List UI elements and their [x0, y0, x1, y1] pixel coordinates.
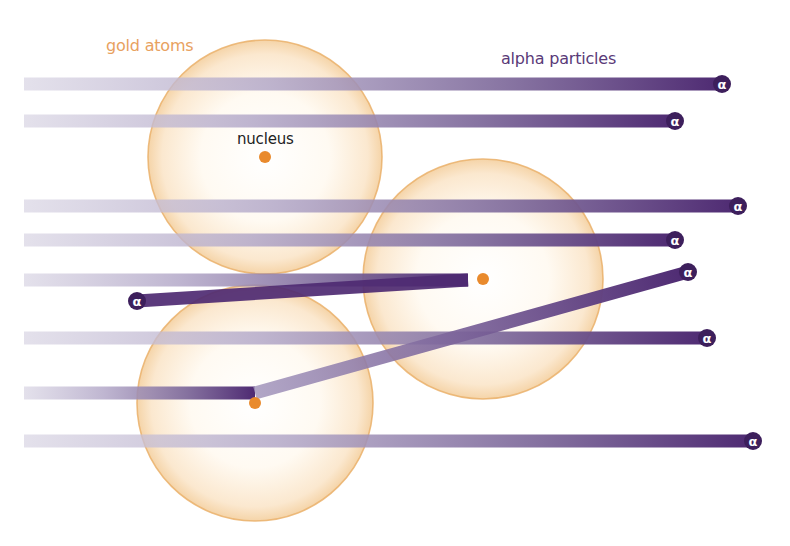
alpha-particle-icon: α [744, 432, 762, 450]
svg-text:α: α [703, 331, 712, 346]
nucleus-label: nucleus [237, 132, 294, 147]
rutherford-diagram: αααααααα gold atoms alpha particles nucl… [0, 0, 790, 546]
svg-text:α: α [749, 434, 758, 449]
svg-text:α: α [133, 294, 142, 309]
gold-atoms-label: gold atoms [106, 38, 193, 54]
svg-text:α: α [734, 199, 743, 214]
svg-text:α: α [684, 265, 693, 280]
alpha-particles-label: alpha particles [501, 51, 616, 67]
nucleus-dot [249, 397, 261, 409]
alpha-particle-icon: α [729, 197, 747, 215]
alpha-particle-icon: α [666, 231, 684, 249]
nucleus-dot [259, 151, 271, 163]
alpha-particle-icon: α [679, 263, 697, 281]
svg-text:α: α [671, 114, 680, 129]
alpha-particle-icon: α [128, 292, 146, 310]
diagram-canvas: αααααααα [0, 0, 790, 546]
alpha-particle-icon: α [713, 75, 731, 93]
alpha-particle-icon: α [666, 112, 684, 130]
svg-text:α: α [718, 77, 727, 92]
alpha-particle-icon: α [698, 329, 716, 347]
svg-text:α: α [671, 233, 680, 248]
nucleus-dot [477, 273, 489, 285]
